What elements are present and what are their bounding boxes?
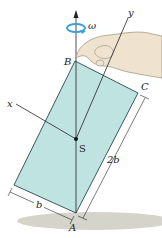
y-axis-label: y (127, 7, 134, 18)
angular-velocity-icon (67, 24, 86, 34)
ground-shadow (17, 212, 162, 230)
dim-b-label: b (36, 199, 42, 210)
point-a-label: A (68, 222, 76, 233)
rigid-plate-diagram: ω y x S B C A 2b b (0, 0, 162, 238)
point-c-label: C (141, 81, 149, 92)
axis-arrowhead-icon (74, 10, 79, 18)
dim-2b-label: 2b (106, 154, 120, 165)
point-b-label: B (63, 56, 71, 67)
center-point-s (74, 137, 78, 141)
x-axis-label: x (7, 98, 13, 109)
point-s-label: S (79, 143, 86, 154)
omega-label: ω (88, 20, 96, 31)
